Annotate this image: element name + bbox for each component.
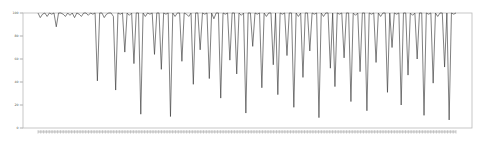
y-tick-label: 80 — [14, 34, 18, 38]
x-tick-label-smear-band — [38, 131, 456, 133]
y-tick-label: 20 — [14, 103, 18, 107]
y-tick-label: 100 — [12, 11, 18, 15]
y-tick-label: 40 — [14, 80, 18, 84]
chart-background — [0, 0, 485, 145]
y-tick-label: 60 — [14, 57, 18, 61]
chart-container: 020406080100 — [0, 0, 485, 145]
y-tick-label: 0 — [16, 126, 18, 130]
line-chart: 020406080100 — [0, 0, 485, 145]
